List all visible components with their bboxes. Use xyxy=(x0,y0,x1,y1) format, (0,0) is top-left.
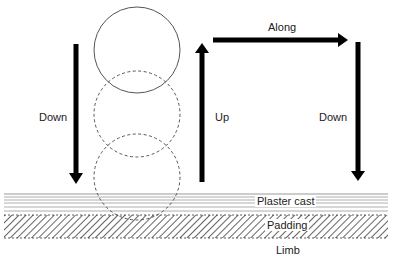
label-along: Along xyxy=(268,21,296,33)
label-down-right: Down xyxy=(319,111,347,123)
label-up: Up xyxy=(215,111,229,123)
arrow-down-left-icon xyxy=(69,44,83,184)
label-limb: Limb xyxy=(276,244,300,256)
label-plaster-cast: Plaster cast xyxy=(255,195,316,207)
label-padding: Padding xyxy=(265,219,309,231)
plaster-cast-layer xyxy=(4,194,388,211)
padding-layer xyxy=(4,215,388,238)
label-down-left: Down xyxy=(39,111,67,123)
arrow-along-icon xyxy=(213,33,348,47)
diagram-canvas xyxy=(0,0,400,266)
circle-position-1 xyxy=(94,7,180,93)
circle-position-2 xyxy=(94,71,180,157)
arrow-down-right-icon xyxy=(351,42,365,181)
arrow-up-icon xyxy=(195,43,209,182)
